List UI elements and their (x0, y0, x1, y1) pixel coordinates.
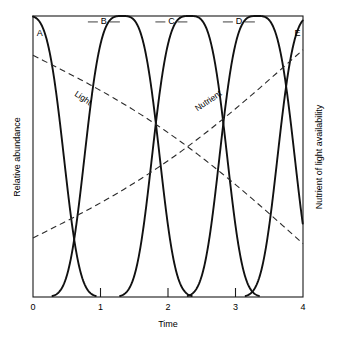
species-abundance-curves (33, 16, 303, 296)
x-tick-label-4: 4 (300, 302, 305, 312)
x-tick-label-2: 2 (165, 302, 170, 312)
chart-canvas: ABCDE LightNutrient 01234 Relative abund… (0, 0, 338, 338)
curve-label-c: C (168, 16, 175, 26)
left-axis-title: Relative abundance (12, 117, 22, 197)
species-curve-a (33, 17, 96, 296)
x-axis-tick-labels: 01234 (30, 302, 305, 312)
x-tick-label-3: 3 (233, 302, 238, 312)
resource-label-nutrient: Nutrient (193, 88, 224, 113)
curve-label-e: E (295, 28, 301, 38)
species-curve-d (188, 16, 303, 296)
right-axis-title: Nutrient of light availability (314, 104, 324, 209)
x-tick-label-1: 1 (98, 302, 103, 312)
curve-labels: ABCDE (37, 16, 301, 37)
bottom-axis-title: Time (158, 319, 178, 329)
resource-curve-light (33, 55, 303, 243)
resource-availability-curves (33, 50, 303, 244)
resource-curve-nutrient (33, 50, 303, 238)
x-tick-label-0: 0 (30, 302, 35, 312)
resource-labels: LightNutrient (73, 88, 224, 113)
curve-label-a: A (37, 28, 43, 38)
plot-frame (33, 16, 303, 297)
figure-container: ABCDE LightNutrient 01234 Relative abund… (0, 0, 338, 338)
species-curve-c (120, 16, 259, 296)
species-curve-b (52, 16, 191, 296)
curve-label-d: D (236, 16, 243, 26)
curve-label-b: B (101, 16, 107, 26)
